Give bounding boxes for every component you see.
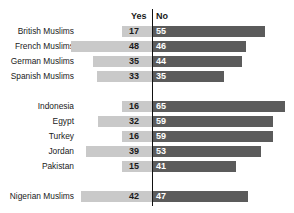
bar-no: [153, 191, 248, 202]
value-yes: 48: [129, 41, 139, 52]
chart-row: German Muslims3544: [0, 56, 294, 67]
column-header-no: No: [156, 11, 168, 21]
bar-yes: [86, 146, 152, 157]
row-label: Jordan: [0, 145, 74, 157]
value-no: 59: [156, 131, 166, 142]
chart-row: Turkey1659: [0, 131, 294, 142]
bar-no: [153, 116, 273, 127]
chart-row: Nigerian Muslims4247: [0, 191, 294, 202]
value-yes: 42: [129, 191, 139, 202]
bar-no: [153, 146, 261, 157]
value-no: 59: [156, 116, 166, 127]
chart-row: British Muslims1755: [0, 26, 294, 37]
chart-row: Pakistan1541: [0, 161, 294, 172]
value-no: 35: [156, 71, 166, 82]
row-label: Spanish Muslims: [0, 70, 74, 82]
row-label: Nigerian Muslims: [0, 190, 74, 202]
bar-no: [153, 101, 285, 112]
row-label: British Muslims: [0, 25, 74, 37]
value-yes: 16: [129, 101, 139, 112]
chart-row: French Muslims4846: [0, 41, 294, 52]
column-header-yes: Yes: [131, 11, 147, 21]
bar-yes: [81, 191, 152, 202]
bar-no: [153, 41, 246, 52]
bar-no: [153, 131, 273, 142]
value-yes: 17: [129, 26, 139, 37]
value-yes: 35: [129, 56, 139, 67]
value-no: 53: [156, 146, 166, 157]
row-label: German Muslims: [0, 55, 74, 67]
row-label: Indonesia: [0, 100, 74, 112]
value-no: 46: [156, 41, 166, 52]
value-no: 41: [156, 161, 166, 172]
diverging-bar-chart: Yes No British Muslims1755French Muslims…: [0, 0, 294, 213]
bar-no: [153, 26, 265, 37]
bar-yes: [98, 116, 152, 127]
bar-yes: [97, 71, 152, 82]
row-label: French Muslims: [0, 40, 74, 52]
chart-row: Indonesia1665: [0, 101, 294, 112]
value-no: 44: [156, 56, 166, 67]
value-no: 55: [156, 26, 166, 37]
value-no: 47: [156, 191, 166, 202]
value-yes: 33: [129, 71, 139, 82]
value-no: 65: [156, 101, 166, 112]
row-label: Egypt: [0, 115, 74, 127]
value-yes: 16: [129, 131, 139, 142]
chart-row: Jordan3953: [0, 146, 294, 157]
chart-row: Spanish Muslims3335: [0, 71, 294, 82]
row-label: Pakistan: [0, 160, 74, 172]
value-yes: 39: [129, 146, 139, 157]
value-yes: 15: [129, 161, 139, 172]
value-yes: 32: [129, 116, 139, 127]
bar-yes: [71, 41, 152, 52]
bar-yes: [93, 56, 152, 67]
chart-row: Egypt3259: [0, 116, 294, 127]
row-label: Turkey: [0, 130, 74, 142]
bar-no: [153, 56, 242, 67]
